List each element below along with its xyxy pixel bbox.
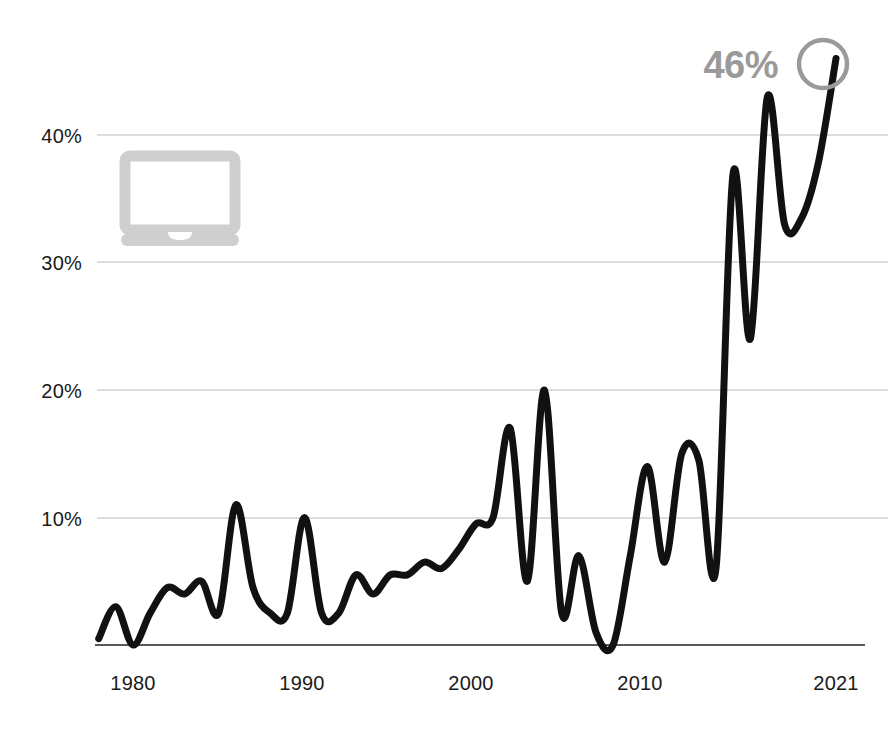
- x-tick-label-2000: 2000: [448, 672, 493, 694]
- laptop-icon: [121, 156, 239, 246]
- x-tick-label-1980: 1980: [110, 672, 155, 694]
- x-tick-label-2010: 2010: [617, 672, 662, 694]
- x-axis-labels: 1980 1990 2000 2010 2021: [110, 672, 858, 694]
- gridlines: [97, 135, 888, 518]
- y-axis-labels: 40% 30% 20% 10%: [41, 125, 82, 530]
- end-value-callout: 46%: [703, 40, 847, 88]
- y-tick-label-30: 30%: [41, 252, 82, 274]
- line-chart: 40% 30% 20% 10% 1980 1990 2000 2010 2021…: [0, 0, 888, 733]
- laptop-screen-shape: [125, 156, 235, 230]
- x-tick-label-2021: 2021: [813, 672, 858, 694]
- chart-container: 40% 30% 20% 10% 1980 1990 2000 2010 2021…: [0, 0, 888, 733]
- callout-value-label: 46%: [703, 44, 778, 86]
- y-tick-label-20: 20%: [41, 380, 82, 402]
- y-tick-label-10: 10%: [41, 508, 82, 530]
- y-tick-label-40: 40%: [41, 125, 82, 147]
- x-tick-label-1990: 1990: [279, 672, 324, 694]
- data-line-series: [99, 59, 836, 651]
- callout-circle-marker: [799, 40, 847, 88]
